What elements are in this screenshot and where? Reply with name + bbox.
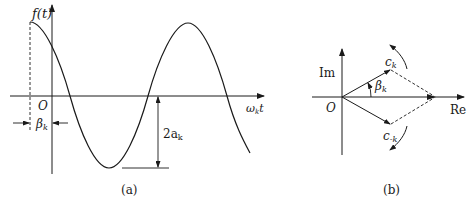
- x-axis-label: ωkt: [246, 102, 264, 116]
- im-axis-label: Im: [319, 66, 336, 80]
- dashed-side-lower: [391, 98, 434, 124]
- angle-arc: [368, 83, 371, 97]
- re-axis-label: Re: [450, 103, 466, 117]
- cosine-curve: [30, 22, 250, 168]
- caption-a: (a): [121, 183, 138, 197]
- figure-canvas: f(t) O ωkt βk 2ak (a) Im Re O ck c-k βk …: [0, 0, 475, 208]
- panel-a: f(t) O ωkt βk 2ak (a): [10, 5, 264, 197]
- amplitude-label: 2ak: [163, 127, 183, 142]
- caption-b: (b): [383, 183, 400, 197]
- origin-label-b: O: [326, 101, 336, 115]
- panel-b: Im Re O ck c-k βk (b): [312, 45, 466, 197]
- cmk-phasor: [342, 97, 390, 124]
- dashed-side-upper: [391, 70, 434, 96]
- ck-label: ck: [385, 55, 397, 70]
- origin-label: O: [38, 99, 48, 113]
- y-axis-label: f(t): [31, 6, 52, 21]
- angle-label: βk: [374, 79, 387, 94]
- cmk-label: c-k: [383, 129, 397, 144]
- phase-label: βk: [35, 117, 48, 132]
